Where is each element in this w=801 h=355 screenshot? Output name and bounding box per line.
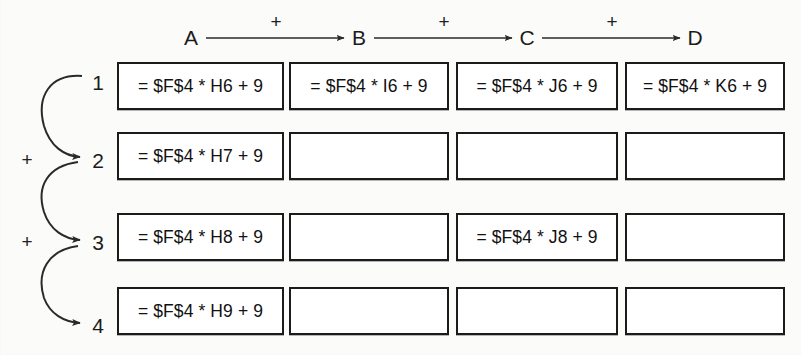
cell-c2[interactable] <box>456 132 618 180</box>
row-header-1: 1 <box>89 72 107 93</box>
cell-a1-text: = $F$4 * H6 + 9 <box>138 76 263 97</box>
row-header-2: 2 <box>89 150 107 171</box>
cell-a3-text: = $F$4 * H8 + 9 <box>138 227 263 248</box>
row-plus-1-2: + <box>18 150 36 169</box>
cell-a3[interactable]: = $F$4 * H8 + 9 <box>117 213 284 261</box>
cell-a1[interactable]: = $F$4 * H6 + 9 <box>117 62 284 110</box>
column-header-c: C <box>514 27 540 48</box>
cell-b4[interactable] <box>289 287 449 335</box>
row-plus-2-3: + <box>18 232 36 251</box>
cell-d1-text: = $F$4 * K6 + 9 <box>643 76 767 97</box>
column-plus-b-c: + <box>434 12 454 31</box>
cell-a4[interactable]: = $F$4 * H9 + 9 <box>117 287 284 335</box>
cell-c4[interactable] <box>456 287 618 335</box>
column-header-a: A <box>178 27 204 48</box>
cell-a4-text: = $F$4 * H9 + 9 <box>138 301 263 322</box>
cell-c1[interactable]: = $F$4 * J6 + 9 <box>456 62 618 110</box>
cell-c3[interactable]: = $F$4 * J8 + 9 <box>456 213 618 261</box>
row-header-3: 3 <box>89 232 107 253</box>
cell-b3[interactable] <box>289 213 449 261</box>
cell-a2-text: = $F$4 * H7 + 9 <box>138 146 263 167</box>
column-header-d: D <box>682 27 708 48</box>
cell-d1[interactable]: = $F$4 * K6 + 9 <box>625 62 785 110</box>
column-header-b: B <box>346 27 372 48</box>
cell-d3[interactable] <box>625 213 785 261</box>
cell-a2[interactable]: = $F$4 * H7 + 9 <box>117 132 284 180</box>
row-arrow-2-to-3 <box>42 162 80 240</box>
row-arrow-1-to-2 <box>42 76 82 157</box>
cell-c1-text: = $F$4 * J6 + 9 <box>476 76 597 97</box>
cell-b2[interactable] <box>289 132 449 180</box>
cell-c3-text: = $F$4 * J8 + 9 <box>476 227 597 248</box>
column-plus-c-d: + <box>602 12 622 31</box>
cell-b1-text: = $F$4 * I6 + 9 <box>310 76 427 97</box>
row-arrow-3-to-4 <box>42 246 80 323</box>
cell-b1[interactable]: = $F$4 * I6 + 9 <box>289 62 449 110</box>
column-plus-a-b: + <box>266 12 286 31</box>
row-header-4: 4 <box>89 315 107 336</box>
cell-d2[interactable] <box>625 132 785 180</box>
diagram-canvas: A B C D + + + 1 2 3 4 + + = $F$4 * H6 + … <box>0 0 801 355</box>
cell-d4[interactable] <box>625 287 785 335</box>
